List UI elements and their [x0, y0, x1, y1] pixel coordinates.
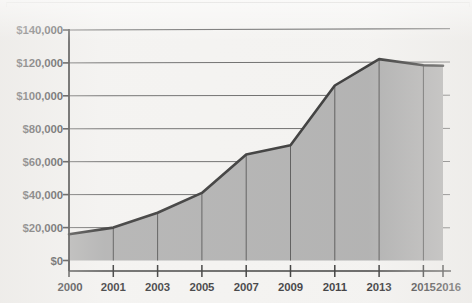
x-tick-label: 2013 [367, 281, 392, 293]
x-tick-label: 2003 [145, 281, 170, 293]
x-tick-label: 2000 [58, 281, 83, 293]
x-tick-label: 2005 [189, 281, 214, 293]
x-tick-label: 2007 [234, 281, 259, 293]
x-tick-label: 2016 [436, 281, 461, 293]
x-tick-label: 2009 [278, 281, 303, 293]
x-tick-label: 2011 [323, 281, 347, 293]
x-tick-label: 2001 [101, 281, 126, 293]
x-axis-tick-labels: 2000 2001 2003 2005 2007 2009 2011 2013 … [0, 0, 472, 303]
x-tick-label: 2015 [411, 281, 436, 293]
